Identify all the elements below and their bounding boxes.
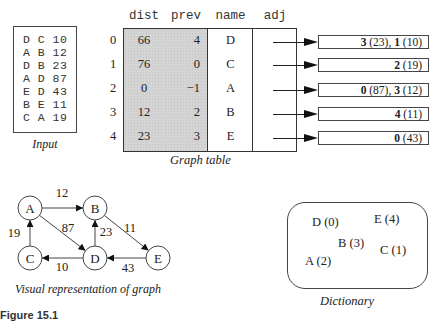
input-line: D B 23 bbox=[23, 59, 75, 72]
edge-weight-label: 19 bbox=[8, 226, 21, 240]
dictionary-item: A (2) bbox=[305, 254, 331, 269]
graph-node-label: B bbox=[91, 201, 100, 216]
row-index: 0 bbox=[108, 28, 118, 52]
adj-list-box: 2 (19) bbox=[318, 58, 429, 72]
graph-node-label: D bbox=[90, 251, 99, 266]
edge-weight-label: 10 bbox=[56, 260, 69, 274]
edge-weight-label: 12 bbox=[56, 186, 69, 200]
figure-caption: Figure 15.1 bbox=[0, 309, 58, 321]
edge-weight-label: 43 bbox=[122, 261, 135, 275]
input-box: D C 10 A B 12 D B 23 A D 87 E D 43 B E 1… bbox=[13, 26, 77, 133]
dictionary-caption: Dictionary bbox=[320, 294, 374, 309]
adj-list-box: 0 (87), 3 (12) bbox=[318, 83, 429, 97]
row-index: 1 bbox=[108, 52, 118, 76]
arrow-right-icon bbox=[304, 38, 318, 46]
graph-diagram: ABCDE 12871123104319 bbox=[0, 180, 200, 280]
adj-pointer-line bbox=[273, 65, 307, 66]
graph-caption: Visual representation of graph bbox=[15, 282, 161, 297]
row-index: 4 bbox=[108, 124, 118, 148]
adj-pointer-line bbox=[273, 114, 307, 115]
graph-node-label: E bbox=[154, 251, 162, 266]
dictionary-item: D (0) bbox=[312, 215, 339, 230]
adj-list-box: 4 (11) bbox=[318, 107, 429, 121]
header-adj: adj bbox=[253, 9, 297, 23]
graph-table-caption: Graph table bbox=[170, 153, 231, 168]
prev-cell: 2 bbox=[164, 100, 200, 124]
edge-weight-label: 23 bbox=[100, 225, 113, 239]
name-cell: D bbox=[208, 28, 253, 52]
input-line: C A 19 bbox=[23, 111, 75, 124]
dist-cell: 12 bbox=[123, 100, 165, 124]
dist-cell: 76 bbox=[123, 52, 165, 76]
name-cell: A bbox=[208, 76, 253, 100]
name-cell: E bbox=[208, 124, 253, 148]
adj-pointer-line bbox=[273, 138, 307, 139]
edge-weight-label: 87 bbox=[62, 221, 75, 235]
prev-cell: 4 bbox=[164, 28, 200, 52]
row-index: 2 bbox=[108, 76, 118, 100]
adj-list-box: 0 (43) bbox=[318, 131, 429, 145]
dist-cell: 23 bbox=[123, 124, 165, 148]
input-line: A B 12 bbox=[23, 46, 75, 59]
name-cell: B bbox=[208, 100, 253, 124]
adj-list-box: 3 (23), 1 (10) bbox=[318, 35, 429, 49]
adj-weight: (87), bbox=[366, 84, 394, 96]
input-line: A D 87 bbox=[23, 72, 75, 85]
adj-weight: (12) bbox=[400, 84, 422, 96]
input-line: B E 11 bbox=[23, 98, 75, 111]
header-dist: dist bbox=[123, 9, 165, 23]
prev-cell: 3 bbox=[164, 124, 200, 148]
name-cell: C bbox=[208, 52, 253, 76]
arrow-right-icon bbox=[304, 110, 318, 118]
row-index: 3 bbox=[108, 100, 118, 124]
prev-cell: 0 bbox=[164, 52, 200, 76]
adj-weight: (11) bbox=[400, 108, 422, 120]
dictionary-item: B (3) bbox=[338, 236, 364, 251]
adj-pointer-line bbox=[273, 42, 307, 43]
prev-cell: −1 bbox=[164, 76, 200, 100]
adj-weight: (23), bbox=[366, 36, 394, 48]
input-line: D C 10 bbox=[23, 33, 75, 46]
arrow-right-icon bbox=[304, 61, 318, 69]
dictionary-item: C (1) bbox=[380, 243, 406, 258]
dist-cell: 66 bbox=[123, 28, 165, 52]
adj-weight: (43) bbox=[400, 132, 422, 144]
header-prev: prev bbox=[164, 9, 208, 23]
edge-weight-label: 11 bbox=[124, 221, 136, 235]
adj-pointer-line bbox=[273, 90, 307, 91]
input-caption: Input bbox=[13, 137, 77, 152]
arrow-right-icon bbox=[304, 86, 318, 94]
graph-node-label: C bbox=[26, 251, 35, 266]
graph-node-label: A bbox=[25, 201, 35, 216]
dist-cell: 0 bbox=[123, 76, 165, 100]
arrow-right-icon bbox=[304, 134, 318, 142]
adj-weight: (19) bbox=[400, 59, 422, 71]
input-line: E D 43 bbox=[23, 85, 75, 98]
adj-weight: (10) bbox=[400, 36, 422, 48]
dictionary-item: E (4) bbox=[374, 212, 399, 227]
header-name: name bbox=[208, 9, 253, 23]
